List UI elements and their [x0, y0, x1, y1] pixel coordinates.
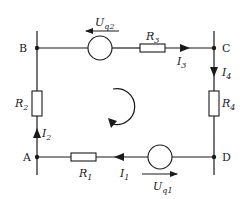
current-arrow-i2-icon — [33, 128, 41, 138]
label-r3: R3 — [145, 30, 159, 45]
label-uq1: Uq1 — [153, 180, 173, 195]
current-arrow-i4-icon — [210, 67, 218, 77]
node-label-b: B — [19, 42, 27, 55]
resistor-r4 — [209, 91, 219, 116]
branch-left — [32, 31, 42, 175]
voltage-source-uq1 — [148, 145, 172, 169]
resistor-r2 — [32, 91, 42, 116]
node-c-dot — [212, 46, 216, 50]
node-label-d: D — [222, 151, 231, 164]
label-i4: I4 — [221, 66, 231, 81]
current-arrow-i3-icon — [180, 44, 190, 52]
label-i1: I1 — [119, 167, 129, 182]
resistor-r1 — [71, 153, 96, 161]
node-label-a: A — [22, 151, 32, 164]
label-uq2: Uq2 — [95, 16, 115, 31]
mesh-orientation-arrow-icon — [108, 89, 135, 128]
resistor-r3 — [140, 44, 165, 52]
label-r1: R1 — [78, 167, 92, 182]
label-i2: I2 — [41, 127, 51, 142]
node-b-dot — [35, 46, 39, 50]
node-a-dot — [35, 155, 39, 159]
voltage-source-uq2 — [88, 36, 112, 60]
label-i3: I3 — [176, 55, 186, 70]
node-label-c: C — [222, 42, 230, 55]
current-arrow-i1-icon — [114, 153, 124, 161]
label-r2: R2 — [14, 97, 28, 112]
branch-top — [37, 31, 214, 60]
node-d-dot — [212, 155, 216, 159]
branch-right — [209, 31, 219, 175]
circuit-diagram: B C A D Uq2 R3 I3 I4 R4 R2 I2 R1 I1 Uq1 — [0, 0, 250, 199]
branch-bottom — [37, 145, 214, 174]
label-r4: R4 — [221, 97, 235, 112]
